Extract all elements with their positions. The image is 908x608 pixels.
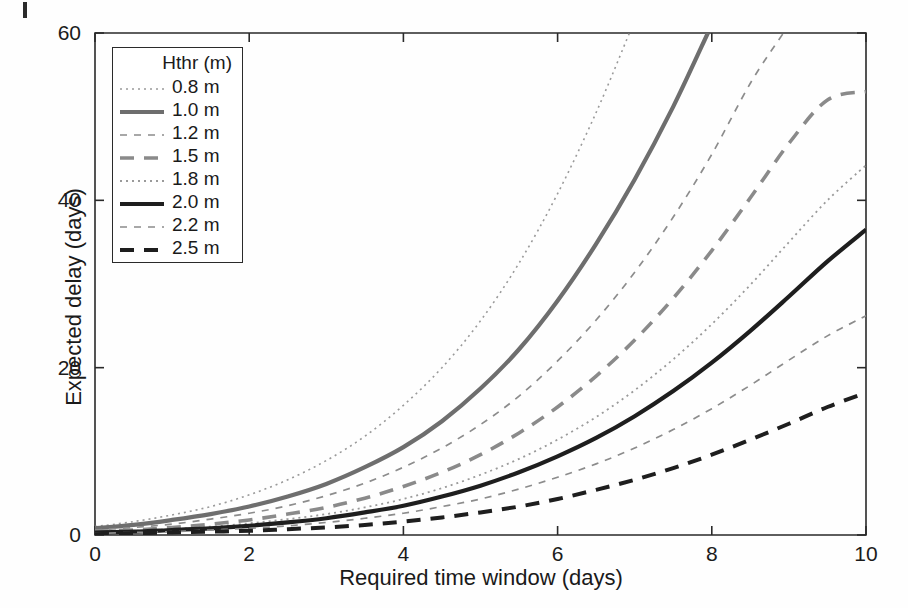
legend-entry: 2.0 m (119, 190, 236, 213)
legend-entry: 2.2 m (119, 213, 236, 236)
x-tick-label: 4 (398, 542, 410, 566)
legend-title: Hthr (m) (119, 52, 236, 74)
legend-line-sample (119, 219, 165, 231)
figure-container: 0204060 0246810 Expected delay (days) Re… (0, 0, 908, 608)
legend-entry-label: 2.0 m (172, 192, 220, 211)
series-line-2-0-m (95, 230, 866, 533)
x-tick-label: 6 (552, 542, 564, 566)
legend-line-sample (119, 150, 165, 162)
legend-entry-label: 2.5 m (172, 238, 220, 257)
legend-line-sample (119, 173, 165, 185)
legend-entry: 2.5 m (119, 236, 236, 259)
legend-entry-label: 2.2 m (172, 215, 220, 234)
x-axis-label: Required time window (days) (95, 565, 867, 591)
legend-line-sample (119, 127, 165, 139)
legend-entry-label: 1.2 m (172, 123, 220, 142)
legend-entry: 1.0 m (119, 98, 236, 121)
legend-line-sample (119, 242, 165, 254)
legend-entry: 0.8 m (119, 75, 236, 98)
legend-entry: 1.2 m (119, 121, 236, 144)
legend-entry: 1.5 m (119, 144, 236, 167)
y-tick-label: 0 (19, 523, 81, 547)
legend-entry-label: 1.8 m (172, 169, 220, 188)
legend-entry: 1.8 m (119, 167, 236, 190)
legend-entry-label: 1.0 m (172, 100, 220, 119)
x-tick-label: 8 (706, 542, 718, 566)
x-tick-label: 10 (854, 542, 877, 566)
legend-line-sample (119, 196, 165, 208)
legend-entry-label: 0.8 m (172, 77, 220, 96)
x-tick-label: 2 (243, 542, 255, 566)
chart-legend: Hthr (m) 0.8 m1.0 m1.2 m1.5 m1.8 m2.0 m2… (112, 47, 243, 263)
series-line-2-2-m (95, 316, 866, 534)
legend-entry-label: 1.5 m (172, 146, 220, 165)
legend-line-sample (119, 104, 165, 116)
legend-entry-list: 0.8 m1.0 m1.2 m1.5 m1.8 m2.0 m2.2 m2.5 m (119, 75, 236, 259)
x-tick-label: 0 (89, 542, 101, 566)
legend-line-sample (119, 81, 165, 93)
y-axis-label: Expected delay (days) (61, 137, 87, 457)
y-tick-label: 60 (19, 21, 81, 45)
